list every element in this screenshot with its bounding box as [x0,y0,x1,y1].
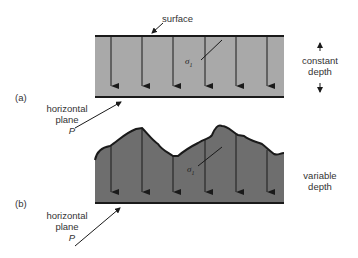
depth-label-line1: variable [297,170,343,181]
sigma-label-b: σ1 [187,164,194,176]
plane-label-line2: plane [42,114,92,125]
panel-b [75,125,284,246]
panel-b-label: (b) [15,198,27,209]
plane-label-line1: horizontal [42,210,92,221]
plane-symbol: P [42,125,92,136]
surface-label: surface [162,13,193,24]
constant-depth-label: constant depth [297,55,343,77]
surface-pointer [152,23,163,33]
depth-label-line2: depth [297,181,343,192]
plane-label-line2: plane [42,221,92,232]
sigma-label-a: σ1 [185,56,192,68]
plane-label-a: horizontal plane P [42,103,92,136]
depth-label-line2: depth [297,66,343,77]
panel-a [75,23,320,128]
sigma-subscript: 1 [189,62,192,68]
plane-label-line1: horizontal [42,103,92,114]
depth-label-line1: constant [297,55,343,66]
plane-symbol: P [42,232,92,243]
sigma-subscript: 1 [191,170,194,176]
plane-label-b: horizontal plane P [42,210,92,243]
variable-depth-label: variable depth [297,170,343,192]
panel-a-label: (a) [15,92,27,103]
